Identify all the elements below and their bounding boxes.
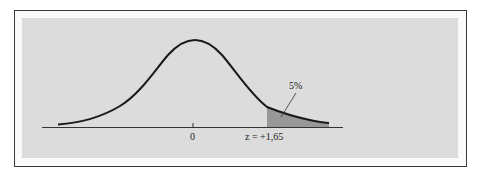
area-leader-line	[281, 93, 296, 117]
area-label: 5%	[289, 80, 302, 91]
mean-label: 0	[190, 131, 195, 142]
critical-value-label: z = +1,65	[245, 131, 283, 142]
normal-distribution-chart: 5% 0 z = +1,65	[0, 0, 481, 177]
